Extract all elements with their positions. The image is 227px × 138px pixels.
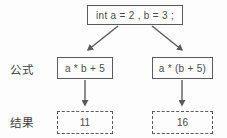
result-value-left: 11 [80, 117, 90, 128]
connector-decl-to-right-formula [152, 26, 182, 50]
result-value-right: 16 [177, 117, 188, 128]
expression-evaluation-diagram: int a = 2 , b = 3 ; 公式 结果 a * b + 5 a * … [0, 0, 227, 138]
result-box-left: 11 [57, 111, 113, 134]
declaration-box: int a = 2 , b = 3 ; [87, 5, 183, 25]
connector-decl-to-left-formula [88, 26, 118, 50]
result-box-right: 16 [152, 111, 213, 134]
row-label-formula: 公式 [10, 61, 33, 77]
formula-box-right: a * (b + 5) [152, 57, 213, 79]
formula-text-left: a * b + 5 [65, 63, 105, 74]
row-label-result: 结果 [10, 114, 33, 130]
formula-box-left: a * b + 5 [57, 57, 113, 79]
formula-text-right: a * (b + 5) [159, 63, 207, 74]
declaration-text: int a = 2 , b = 3 ; [96, 10, 174, 21]
